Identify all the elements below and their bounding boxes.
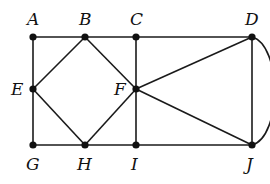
vertex-d	[248, 33, 255, 40]
vertex-label-a: A	[25, 9, 39, 29]
vertex-a	[29, 33, 36, 40]
edge-b-f	[85, 37, 136, 89]
vertex-f	[132, 85, 139, 92]
vertex-label-e: E	[10, 79, 24, 99]
graph-diagram: ABCDEFGHIJ	[0, 0, 270, 184]
vertex-label-d: D	[244, 9, 259, 29]
vertex-label-j: J	[243, 154, 254, 174]
vertex-label-b: B	[78, 9, 92, 29]
edge-b-e	[33, 37, 85, 89]
edges-group	[33, 37, 252, 145]
vertex-h	[81, 141, 88, 148]
edge-f-h	[85, 89, 136, 145]
curved-edges-group	[252, 37, 270, 145]
vertex-label-f: F	[113, 79, 127, 99]
vertex-i	[132, 141, 139, 148]
edge-f-j	[136, 89, 252, 145]
vertex-e	[29, 85, 36, 92]
vertex-label-c: C	[130, 9, 143, 29]
vertex-c	[132, 33, 139, 40]
vertex-label-i: I	[130, 154, 138, 174]
vertex-b	[81, 33, 88, 40]
edge-e-h	[33, 89, 85, 145]
edge-f-d	[136, 37, 252, 89]
vertex-g	[29, 141, 36, 148]
curved-edge-d-j	[252, 37, 270, 145]
vertex-label-h: H	[76, 154, 93, 174]
vertex-label-g: G	[26, 154, 40, 174]
vertex-j	[248, 141, 255, 148]
